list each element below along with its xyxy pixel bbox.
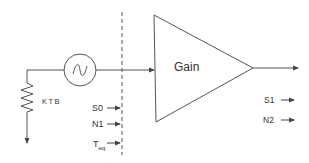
amplifier-gain-label: Gain xyxy=(174,60,199,74)
wire-resistor-top xyxy=(27,70,64,83)
label-teq: Teq xyxy=(93,139,105,151)
amplifier-triangle-icon xyxy=(154,15,253,122)
output-labels: S1 N2 xyxy=(263,95,294,125)
resistor-label: KTB xyxy=(42,97,61,106)
label-n1: N1 xyxy=(92,119,104,129)
sine-wave-icon xyxy=(73,64,87,75)
label-s0: S0 xyxy=(92,103,103,113)
label-n2: N2 xyxy=(263,115,274,125)
label-s1: S1 xyxy=(264,95,275,105)
ac-source xyxy=(64,54,96,86)
resistor-branch: KTB xyxy=(21,70,64,143)
input-labels: S0 N1 Teq xyxy=(92,103,120,151)
resistor-icon xyxy=(21,83,33,112)
amplifier-noise-diagram: KTB S0 N1 Teq Gain S1 N2 xyxy=(0,0,309,163)
amplifier: Gain xyxy=(154,15,253,122)
